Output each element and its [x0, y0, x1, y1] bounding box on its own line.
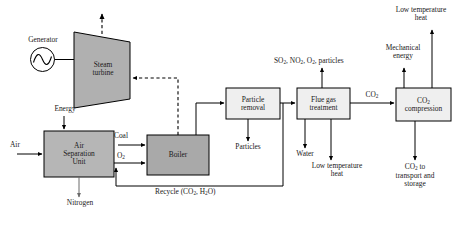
steam-turbine-shape — [74, 32, 130, 108]
air-label: Air — [10, 141, 20, 149]
particles-label: Particles — [224, 143, 272, 151]
water-label: Water — [288, 150, 322, 158]
co2-to-storage-label: CO2 to transport and storage — [382, 163, 448, 188]
process-flow-diagram: Generator Steam turbine Air Separation U… — [0, 0, 461, 225]
flue-gas-line-boiler-to-particle-removal — [196, 103, 224, 135]
air-separation-unit-shape — [44, 131, 114, 177]
low-temperature-heat-compression-label: Low temperature heat — [385, 6, 457, 23]
boiler-shape — [147, 135, 209, 175]
particle-removal-shape — [226, 88, 280, 119]
nitrogen-label: Nitrogen — [54, 199, 106, 207]
coal-label: Coal — [114, 132, 128, 140]
mechanical-energy-label: Mechanical energy — [372, 44, 434, 61]
flue-emissions-label: SO2, NO2, O2, particles — [274, 57, 344, 66]
co2-stream-label: CO2 — [355, 91, 389, 100]
oxygen-label: O2 — [117, 152, 125, 161]
energy-label: Energy — [44, 105, 86, 113]
recycle-label: Recycle (CO2, H2O) — [155, 188, 216, 197]
low-temperature-heat-fgt-label: Low temperature heat — [305, 162, 369, 179]
flue-gas-treatment-shape — [297, 88, 350, 119]
co2-compression-shape — [396, 88, 451, 121]
steam-line-boiler-to-turbine — [133, 78, 178, 135]
